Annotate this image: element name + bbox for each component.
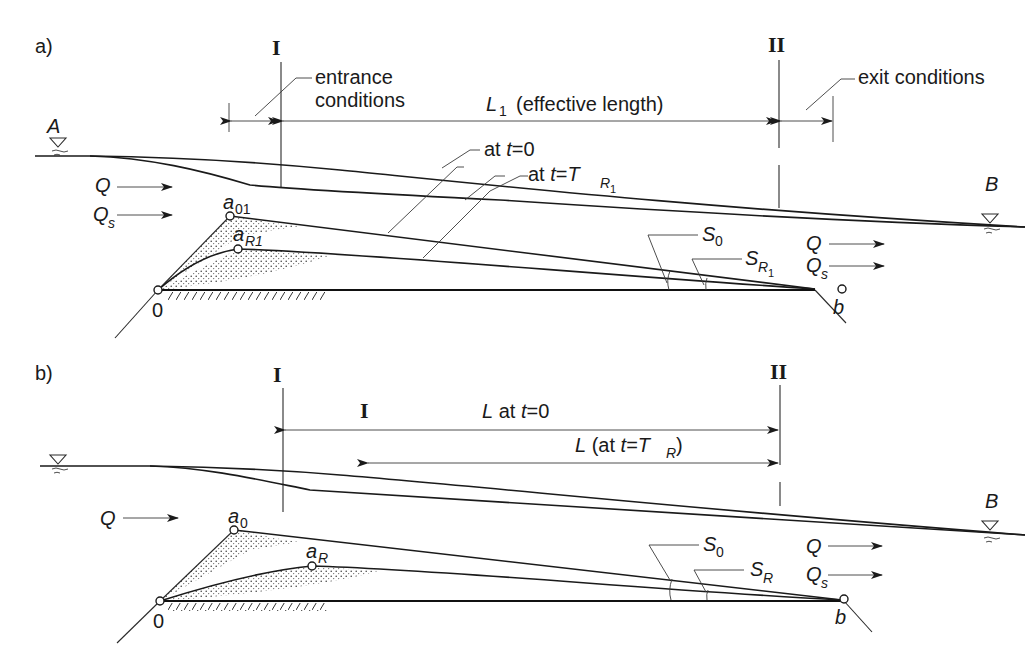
node-b-label: b (833, 296, 844, 318)
flow-Qs-label: Q (93, 203, 109, 225)
flow-Qs-right-label-b: Q (806, 563, 822, 585)
entrance-label-1: entrance (315, 66, 393, 88)
node-0-label: 0 (152, 299, 163, 321)
node-aR-label: a (306, 540, 317, 562)
node-aR1-subscript: R1 (245, 233, 263, 249)
flow-Qs-right-subscript: s (821, 266, 828, 282)
entrance-leader (255, 78, 312, 116)
point-A-label: A (46, 115, 60, 137)
section-I-inner-label-b: I (360, 398, 369, 423)
node-a0-subscript: 0 (240, 515, 248, 531)
bed-hatching-b (167, 603, 327, 611)
node-b-label-b: b (835, 606, 846, 628)
downstream-slope-b (844, 601, 872, 632)
S0-angle-arc (668, 271, 670, 290)
node-a0-label: a (228, 505, 239, 527)
water-level-A-ripple (52, 150, 68, 155)
node-0 (154, 286, 162, 294)
slope-S0-subscript: 0 (715, 233, 723, 249)
water-level-A-icon (50, 138, 66, 147)
length-L-t0-label: L at t=0 (482, 400, 549, 422)
section-I-label: I (272, 35, 281, 60)
section-I-label-b: I (273, 362, 282, 387)
tR1-leader-1 (423, 176, 528, 258)
slope-SR1-subscript: R (758, 259, 768, 275)
panel-b: b) I I II L at t=0 L (at t=T R ) B Q (35, 359, 1025, 643)
panel-b-label: b) (35, 362, 53, 384)
length-L1-subscript: 1 (499, 103, 507, 119)
point-B-label: B (985, 173, 998, 195)
section-II-label: II (768, 32, 785, 57)
water-level-B-icon (982, 214, 998, 223)
length-L-tR-label: L (at t=T (575, 434, 652, 456)
node-a01-subscript: 01 (235, 201, 251, 217)
flow-Qs-right-label: Q (806, 254, 822, 276)
node-aR-subscript: R (318, 550, 328, 566)
slope-SR-label-b: S (750, 558, 764, 580)
SR-leader-b (694, 570, 744, 592)
point-B-label-b: B (985, 490, 998, 512)
water-level-B-ripple (984, 228, 1000, 233)
length-L-tR-subscript: R (666, 445, 676, 461)
exit-leader (806, 79, 855, 110)
flow-Q-label: Q (95, 174, 111, 196)
section-II-label-b: II (770, 359, 787, 384)
reservoir-sedimentation-figure: a) I II entrance conditions L 1 (effecti… (0, 0, 1034, 669)
S0-leader-b (649, 545, 699, 580)
slope-S0-subscript-b: 0 (716, 544, 724, 560)
length-L-tR-close: ) (676, 434, 683, 456)
water-level-left-icon (50, 455, 66, 464)
slope-SR1-subsubscript: 1 (768, 267, 774, 279)
t0-leader-2 (442, 150, 480, 168)
node-0-b (156, 597, 164, 605)
SR1-angle-arc (706, 278, 707, 290)
entrance-label-2: conditions (315, 89, 405, 111)
node-b (838, 285, 846, 293)
flow-Q-right-label-b: Q (806, 535, 822, 557)
node-0-label-b: 0 (153, 610, 164, 632)
time-tR1-subscript: R (600, 175, 610, 191)
effective-length-label: (effective length) (516, 93, 664, 115)
flow-Q-right-label: Q (806, 232, 822, 254)
node-a01-label: a (223, 191, 234, 213)
node-a0 (230, 526, 238, 534)
S0-leader (648, 235, 698, 283)
panel-a: a) I II entrance conditions L 1 (effecti… (35, 32, 1025, 338)
slope-S0-label: S (702, 223, 716, 245)
time-tR1-label: at t=T (528, 163, 582, 185)
bed-hatching (165, 292, 325, 300)
water-surface-b-initial (40, 466, 1025, 535)
slope-S0-label-b: S (703, 533, 717, 555)
flow-Qs-subscript: s (108, 215, 115, 231)
t0-leader-1 (388, 167, 464, 233)
length-L1-symbol: L (486, 93, 497, 115)
slope-SR1-label: S (745, 247, 759, 269)
water-level-left-ripple (52, 468, 68, 473)
node-aR1-label: a (233, 223, 244, 245)
time-t0-label: at t=0 (484, 138, 535, 160)
flow-Qs-right-subscript-b: s (821, 575, 828, 591)
water-level-B-ripple-b (984, 537, 1000, 542)
node-aR1 (234, 245, 242, 253)
water-level-B-icon-b (982, 521, 998, 530)
panel-a-label: a) (35, 35, 53, 57)
node-aR (308, 562, 316, 570)
time-tR1-subsubscript: 1 (610, 183, 616, 195)
slope-SR-subscript-b: R (763, 570, 773, 586)
flow-Q-left-label-b: Q (100, 507, 116, 529)
node-b-b (840, 595, 848, 603)
exit-conditions-label: exit conditions (858, 66, 985, 88)
node-a01 (226, 212, 234, 220)
